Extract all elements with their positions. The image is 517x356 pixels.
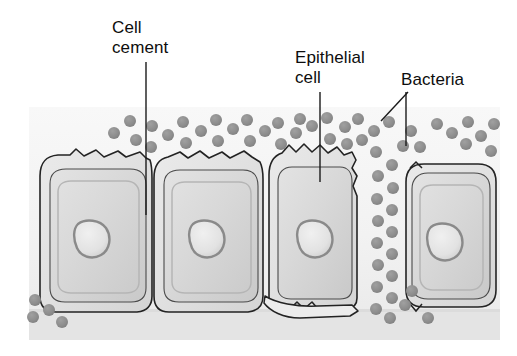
bacterium [386, 248, 398, 260]
bacterium [275, 138, 287, 150]
bacterium [145, 141, 157, 153]
bacterium [272, 117, 284, 129]
bacterium [195, 125, 207, 137]
bacterium [399, 299, 411, 311]
bacterium [386, 270, 398, 282]
bacterium [386, 226, 398, 238]
bacterium [241, 114, 253, 126]
bacterium [356, 134, 368, 146]
bacterium [386, 204, 398, 216]
bacterium [405, 125, 417, 137]
bacterium [244, 135, 256, 147]
epithelial-cell-4 [406, 162, 496, 311]
epithelial-cell-2 [154, 151, 263, 312]
bacterium [306, 120, 318, 132]
bacterium [177, 116, 189, 128]
bacterium [56, 316, 68, 328]
bacterium [372, 170, 384, 182]
diagram-canvas: Cell cement Epithelial cell Bacteria [0, 0, 517, 356]
bacterium [485, 145, 497, 157]
bacterium [162, 129, 174, 141]
bacterium [124, 115, 136, 127]
bacterium [372, 259, 384, 271]
bacterium [324, 133, 336, 145]
bacterium [384, 312, 396, 324]
bacterium [371, 193, 383, 205]
bacterium [341, 138, 353, 150]
bacterium [372, 215, 384, 227]
cell-4-nucleus [427, 224, 462, 261]
bacterium [371, 237, 383, 249]
label-bacteria: Bacteria [401, 70, 464, 90]
bacterium [259, 125, 271, 137]
epithelial-cell-3 [264, 144, 358, 318]
bacterium [414, 141, 426, 153]
bacterium [370, 146, 382, 158]
bacterium [352, 113, 364, 125]
epithelium-bacteria-figure [0, 0, 517, 356]
bacterium [108, 127, 120, 139]
bacterium [406, 285, 418, 297]
epithelial-cell-1 [40, 149, 152, 312]
bacterium [43, 304, 55, 316]
bacterium [475, 130, 487, 142]
bacterium [462, 116, 474, 128]
bacterium [130, 134, 142, 146]
label-cell-cement: Cell cement [112, 18, 168, 58]
bacterium [446, 127, 458, 139]
bacterium [488, 118, 500, 130]
bacterium [294, 113, 306, 125]
cell-2-nucleus [189, 221, 224, 258]
bacterium [387, 182, 399, 194]
bacterium [146, 120, 158, 132]
bacterium [180, 137, 192, 149]
label-epithelial-cell: Epithelial cell [295, 48, 365, 88]
bacterium [227, 123, 239, 135]
bacterium [422, 312, 434, 324]
bacterium [210, 114, 222, 126]
cell-1-nucleus [74, 221, 109, 258]
bacterium [290, 127, 302, 139]
bacterium [370, 303, 382, 315]
bacterium [368, 125, 380, 137]
bacterium [212, 135, 224, 147]
bacterium [460, 138, 472, 150]
bacterium [397, 140, 409, 152]
bacterium [386, 292, 398, 304]
bacterium [27, 311, 39, 323]
bacterium [371, 281, 383, 293]
cell-3-nucleus [297, 221, 332, 258]
bacterium [29, 294, 41, 306]
bacterium [386, 159, 398, 171]
bacterium [339, 121, 351, 133]
bacterium [431, 118, 443, 130]
bacterium [321, 112, 333, 124]
